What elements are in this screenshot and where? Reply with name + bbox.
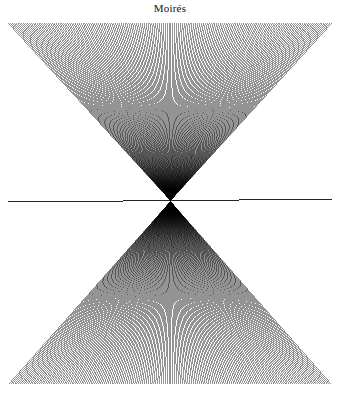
moire-ray — [171, 23, 252, 201]
moire-ray — [171, 201, 233, 385]
moire-ray — [71, 201, 170, 385]
moire-ray — [171, 201, 317, 385]
moire-ray — [171, 201, 285, 385]
moire-ray — [62, 23, 171, 201]
moire-ray — [117, 201, 170, 385]
moire-figure: Moirés — [0, 0, 340, 397]
moire-ray — [85, 201, 171, 385]
moire-ray — [171, 23, 309, 201]
moire-ray — [27, 23, 170, 201]
moire-ray — [79, 23, 171, 201]
moire-ray — [23, 23, 170, 201]
moire-ray — [171, 201, 246, 385]
moire-ray — [171, 23, 221, 201]
moire-ray — [171, 23, 265, 201]
moire-ray — [171, 23, 233, 201]
moire-ray — [79, 201, 171, 385]
moire-ray — [104, 201, 171, 385]
moire-ray — [14, 201, 171, 385]
moire-line-canvas — [0, 0, 340, 397]
moire-ray — [29, 23, 170, 201]
moire-ray — [60, 201, 171, 385]
moire-ray — [46, 201, 170, 385]
moire-ray — [92, 23, 170, 201]
moire-ray — [100, 23, 170, 201]
moire-ray — [29, 201, 170, 385]
moire-ray — [52, 23, 170, 201]
moire-ray — [62, 201, 171, 385]
moire-ray — [100, 201, 170, 385]
moire-ray — [171, 23, 331, 201]
moire-ray — [171, 201, 277, 385]
moire-plate — [0, 0, 340, 397]
moire-ray — [171, 23, 323, 201]
moire-ray — [60, 23, 171, 201]
moire-ray — [171, 201, 252, 385]
moire-ray — [171, 23, 317, 201]
moire-ray — [27, 201, 170, 385]
moire-ray — [171, 23, 279, 201]
moire-ray — [16, 201, 171, 385]
moire-ray — [104, 23, 171, 201]
moire-ray — [171, 23, 311, 201]
moire-ray — [171, 23, 258, 201]
moire-ray — [67, 201, 170, 385]
moire-ray — [171, 201, 265, 385]
moire-ray — [171, 201, 311, 385]
moire-ray — [171, 201, 258, 385]
moire-ray — [67, 23, 170, 201]
moire-ray — [171, 23, 321, 201]
moire-ray — [92, 201, 170, 385]
moire-ray — [171, 23, 298, 201]
moire-ray — [48, 201, 170, 385]
moire-ray — [171, 23, 285, 201]
moire-ray — [48, 23, 170, 201]
moire-ray — [23, 201, 170, 385]
moire-ray — [171, 201, 309, 385]
moire-ray — [52, 201, 170, 385]
moire-ray — [46, 23, 170, 201]
moire-ray — [14, 23, 171, 201]
moire-ray — [112, 201, 171, 385]
moire-ray — [117, 23, 170, 201]
moire-ray — [171, 201, 321, 385]
moire-ray — [85, 23, 171, 201]
moire-ray — [171, 23, 235, 201]
moire-ray — [171, 201, 235, 385]
moire-ray — [171, 201, 279, 385]
moire-ray — [171, 23, 277, 201]
moire-ray — [112, 23, 171, 201]
moire-ray — [171, 201, 221, 385]
moire-ray — [171, 201, 290, 385]
moire-ray — [16, 23, 171, 201]
moire-ray — [171, 23, 246, 201]
moire-ray — [171, 23, 290, 201]
moire-ray — [171, 201, 298, 385]
moire-ray — [171, 201, 323, 385]
ray-bundle — [8, 23, 332, 384]
moire-ray — [171, 201, 331, 385]
moire-ray — [71, 23, 170, 201]
